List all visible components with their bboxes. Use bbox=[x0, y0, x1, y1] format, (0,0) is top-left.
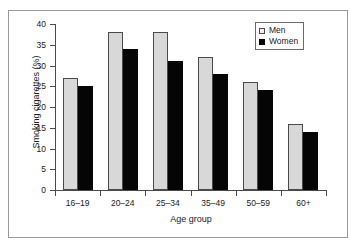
chart-legend: Men Women bbox=[255, 22, 304, 50]
legend-item-women: Women bbox=[259, 36, 298, 47]
x-tick-1 bbox=[100, 191, 101, 196]
x-tick-5 bbox=[281, 191, 282, 196]
bar-men-25–34 bbox=[153, 32, 168, 190]
x-tick-label-25–34: 25–34 bbox=[145, 199, 190, 208]
legend-swatch-women-icon bbox=[259, 39, 265, 45]
bar-men-16–19 bbox=[63, 78, 78, 190]
x-tick-3 bbox=[191, 191, 192, 196]
x-tick-label-20–24: 20–24 bbox=[100, 199, 145, 208]
legend-item-men: Men bbox=[259, 25, 298, 36]
bar-women-20–24 bbox=[123, 49, 138, 190]
x-tick-label-16–19: 16–19 bbox=[55, 199, 100, 208]
bar-women-35–49 bbox=[213, 74, 228, 190]
x-tick-0 bbox=[55, 191, 56, 196]
bar-men-50–59 bbox=[243, 82, 258, 190]
bar-men-60+ bbox=[288, 124, 303, 190]
bar-men-20–24 bbox=[108, 32, 123, 190]
bar-men-35–49 bbox=[198, 57, 213, 190]
chart-figure: 0510152025303540 16–1920–2425–3435–4950–… bbox=[0, 0, 356, 248]
y-axis-title: Smoking cigarettes (%) bbox=[31, 17, 41, 187]
legend-label-women: Women bbox=[269, 37, 298, 46]
bar-women-60+ bbox=[303, 132, 318, 190]
x-tick-label-35–49: 35–49 bbox=[191, 199, 236, 208]
legend-label-men: Men bbox=[269, 26, 286, 35]
legend-swatch-men-icon bbox=[259, 28, 265, 34]
x-tick-2 bbox=[145, 191, 146, 196]
x-tick-label-50–59: 50–59 bbox=[236, 199, 281, 208]
x-axis-title: Age group bbox=[55, 214, 327, 224]
bar-women-50–59 bbox=[258, 90, 273, 190]
x-tick-label-60+: 60+ bbox=[281, 199, 326, 208]
bar-women-16–19 bbox=[78, 86, 93, 190]
x-tick-6 bbox=[326, 191, 327, 196]
x-tick-4 bbox=[236, 191, 237, 196]
y-tick-label-0: 0 bbox=[20, 186, 46, 195]
bar-women-25–34 bbox=[168, 61, 183, 190]
